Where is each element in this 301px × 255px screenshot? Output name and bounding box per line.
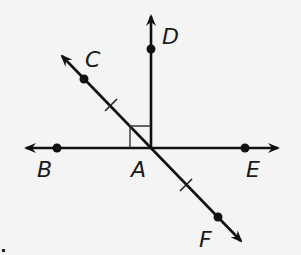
line-cf-lower <box>151 148 241 241</box>
line-cf-upper <box>62 56 151 148</box>
label-b: B <box>37 157 52 182</box>
point-c <box>80 75 89 84</box>
point-f <box>214 213 223 222</box>
label-a: A <box>129 157 146 182</box>
label-c: C <box>85 47 101 72</box>
point-d <box>147 45 156 54</box>
geometry-diagram: A B C D E F <box>0 0 301 255</box>
label-f: F <box>199 227 212 252</box>
label-d: D <box>162 24 179 49</box>
point-b <box>53 144 62 153</box>
point-e <box>241 144 250 153</box>
stray-dot <box>2 249 5 252</box>
label-e: E <box>246 157 260 182</box>
